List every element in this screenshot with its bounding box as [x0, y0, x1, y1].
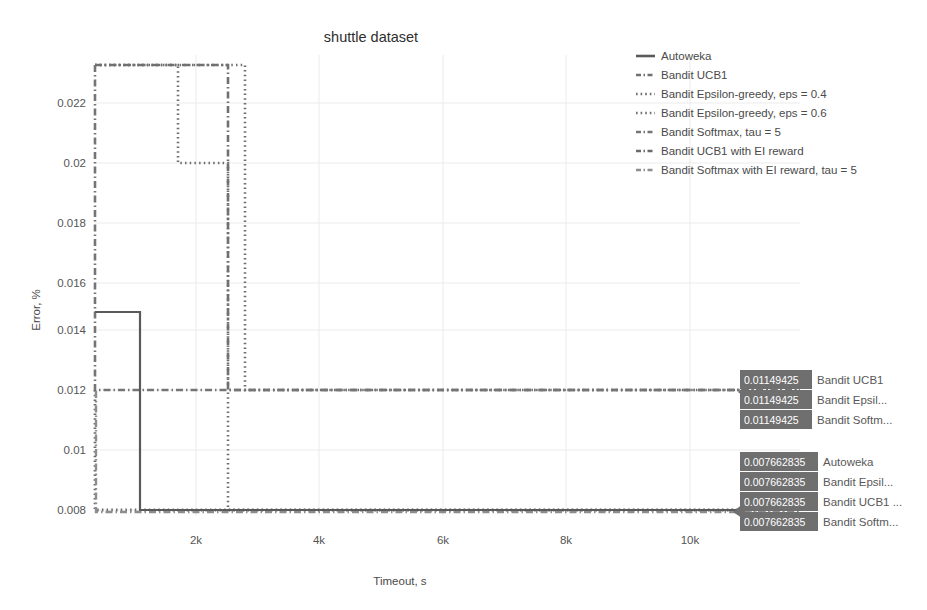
- x-tick-label: 6k: [437, 534, 449, 546]
- legend-item-bandit-ucb1-ei[interactable]: Bandit UCB1 with EI reward: [636, 145, 804, 157]
- data-label-name: Bandit Softm...: [817, 414, 892, 426]
- data-label-name: Autoweka: [823, 456, 874, 468]
- x-tick-label: 8k: [560, 534, 572, 546]
- data-label-name: Bandit UCB1: [817, 374, 883, 386]
- y-tick-label: 0.014: [57, 324, 86, 336]
- x-axis-title: Timeout, s: [373, 575, 427, 587]
- data-label-value: 0.007662835: [744, 496, 805, 508]
- y-tick-label: 0.022: [57, 97, 86, 109]
- data-label-value: 0.007662835: [744, 456, 805, 468]
- legend-item-bandit-softmax-ei[interactable]: Bandit Softmax with EI reward, tau = 5: [636, 164, 857, 176]
- data-label-value: 0.01149425: [744, 414, 799, 426]
- x-tick-label: 4k: [313, 534, 325, 546]
- legend-label: Bandit UCB1: [661, 69, 727, 81]
- data-label-value: 0.01149425: [744, 394, 799, 406]
- y-tick-label: 0.008: [57, 504, 86, 516]
- y-tick-label: 0.02: [64, 157, 86, 169]
- y-axis-title: Error, %: [30, 289, 42, 331]
- y-tick-label: 0.018: [57, 217, 86, 229]
- legend-label: Bandit Softmax with EI reward, tau = 5: [661, 164, 857, 176]
- legend-item-bandit-epsilon-greedy-04[interactable]: Bandit Epsilon-greedy, eps = 0.4: [636, 88, 827, 100]
- chart-canvas: shuttle dataset 0.022 0.02 0.018 0.016: [0, 0, 927, 610]
- data-label-name: Bandit Epsil...: [823, 476, 893, 488]
- legend-label: Bandit Softmax, tau = 5: [661, 126, 781, 138]
- legend-label: Bandit Epsilon-greedy, eps = 0.6: [661, 107, 827, 119]
- x-tick-label: 2k: [190, 534, 202, 546]
- data-label-name: Bandit Softm...: [823, 516, 898, 528]
- data-label-name: Bandit Epsil...: [817, 394, 887, 406]
- x-tick-label: 10k: [681, 534, 700, 546]
- y-tick-label: 0.012: [57, 384, 86, 396]
- chart-title: shuttle dataset: [324, 29, 418, 45]
- legend-item-bandit-epsilon-greedy-06[interactable]: Bandit Epsilon-greedy, eps = 0.6: [636, 107, 827, 119]
- y-tick-label: 0.01: [64, 444, 86, 456]
- data-label-name: Bandit UCB1 ...: [823, 496, 902, 508]
- chart-page: shuttle dataset 0.022 0.02 0.018 0.016: [0, 0, 927, 610]
- legend-label: Bandit UCB1 with EI reward: [661, 145, 804, 157]
- y-tick-label: 0.016: [57, 277, 86, 289]
- data-label-value: 0.007662835: [744, 516, 805, 528]
- legend-label: Autoweka: [661, 50, 712, 62]
- legend-label: Bandit Epsilon-greedy, eps = 0.4: [661, 88, 827, 100]
- data-label-value: 0.01149425: [744, 374, 799, 386]
- data-label-value: 0.007662835: [744, 476, 805, 488]
